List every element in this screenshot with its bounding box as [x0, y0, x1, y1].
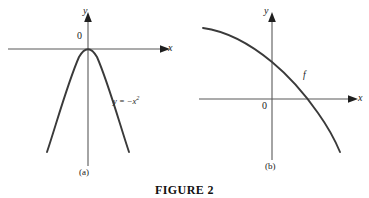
panel-a-plot — [0, 0, 185, 198]
origin-label: 0 — [262, 101, 267, 111]
curve-equation-base: y = −x — [113, 96, 136, 106]
panel-b-plot — [185, 0, 369, 198]
y-axis-label: y — [83, 6, 87, 16]
curve-equation-label: y = −x2 — [113, 95, 139, 105]
x-axis-label: x — [358, 93, 362, 103]
panel-sublabel-a: (a) — [79, 168, 89, 177]
curve-name-label: f — [303, 71, 306, 81]
x-axis-arrow-icon — [348, 95, 358, 103]
figure-panel-a: y x 0 y = −x2 (a) — [0, 0, 185, 198]
x-axis-label: x — [168, 43, 172, 53]
panel-sublabel-b: (b) — [265, 162, 276, 171]
y-axis-arrow-icon — [268, 12, 276, 22]
origin-label: 0 — [77, 31, 82, 41]
y-axis-label: y — [264, 6, 268, 16]
figure-panel-b: y x 0 f (b) — [185, 0, 369, 198]
figure-caption: FIGURE 2 — [0, 183, 369, 198]
figure-container: y x 0 y = −x2 (a) y x 0 f (b) FIGURE 2 — [0, 0, 369, 198]
curve-equation-exponent: 2 — [136, 95, 139, 101]
